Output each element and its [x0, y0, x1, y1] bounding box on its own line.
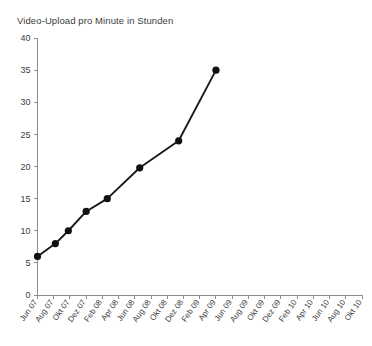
x-tick-label: Aug 07: [33, 298, 55, 324]
y-tick-label: 40: [20, 33, 30, 43]
y-tick-label: 35: [20, 65, 30, 75]
y-tick-label: 30: [20, 97, 30, 107]
data-point-marker: [212, 67, 219, 74]
x-tick-label: Okt 10: [343, 298, 364, 323]
y-tick-label: 25: [20, 130, 30, 140]
data-point-marker: [104, 195, 111, 202]
data-series: [34, 67, 220, 261]
data-point-marker: [175, 137, 182, 144]
data-point-marker: [83, 208, 90, 215]
y-axis: 0510152025303540: [20, 33, 37, 300]
data-point-marker: [65, 227, 72, 234]
data-point-marker: [34, 253, 41, 260]
line-chart-plot: 0510152025303540 Jun 07Aug 07Okt 07Dez 0…: [0, 0, 372, 346]
y-tick-label: 0: [25, 290, 30, 300]
chart-container: Video-Upload pro Minute in Stunden 05101…: [0, 0, 372, 346]
x-axis: Jun 07Aug 07Okt 07Dez 07Feb 08Apr 08Jun …: [18, 295, 364, 324]
y-tick-label: 20: [20, 162, 30, 172]
data-point-marker: [52, 240, 59, 247]
data-point-marker: [136, 164, 143, 171]
series-line: [38, 70, 216, 256]
y-tick-label: 5: [25, 258, 30, 268]
y-tick-label: 15: [20, 194, 30, 204]
y-tick-label: 10: [20, 226, 30, 236]
